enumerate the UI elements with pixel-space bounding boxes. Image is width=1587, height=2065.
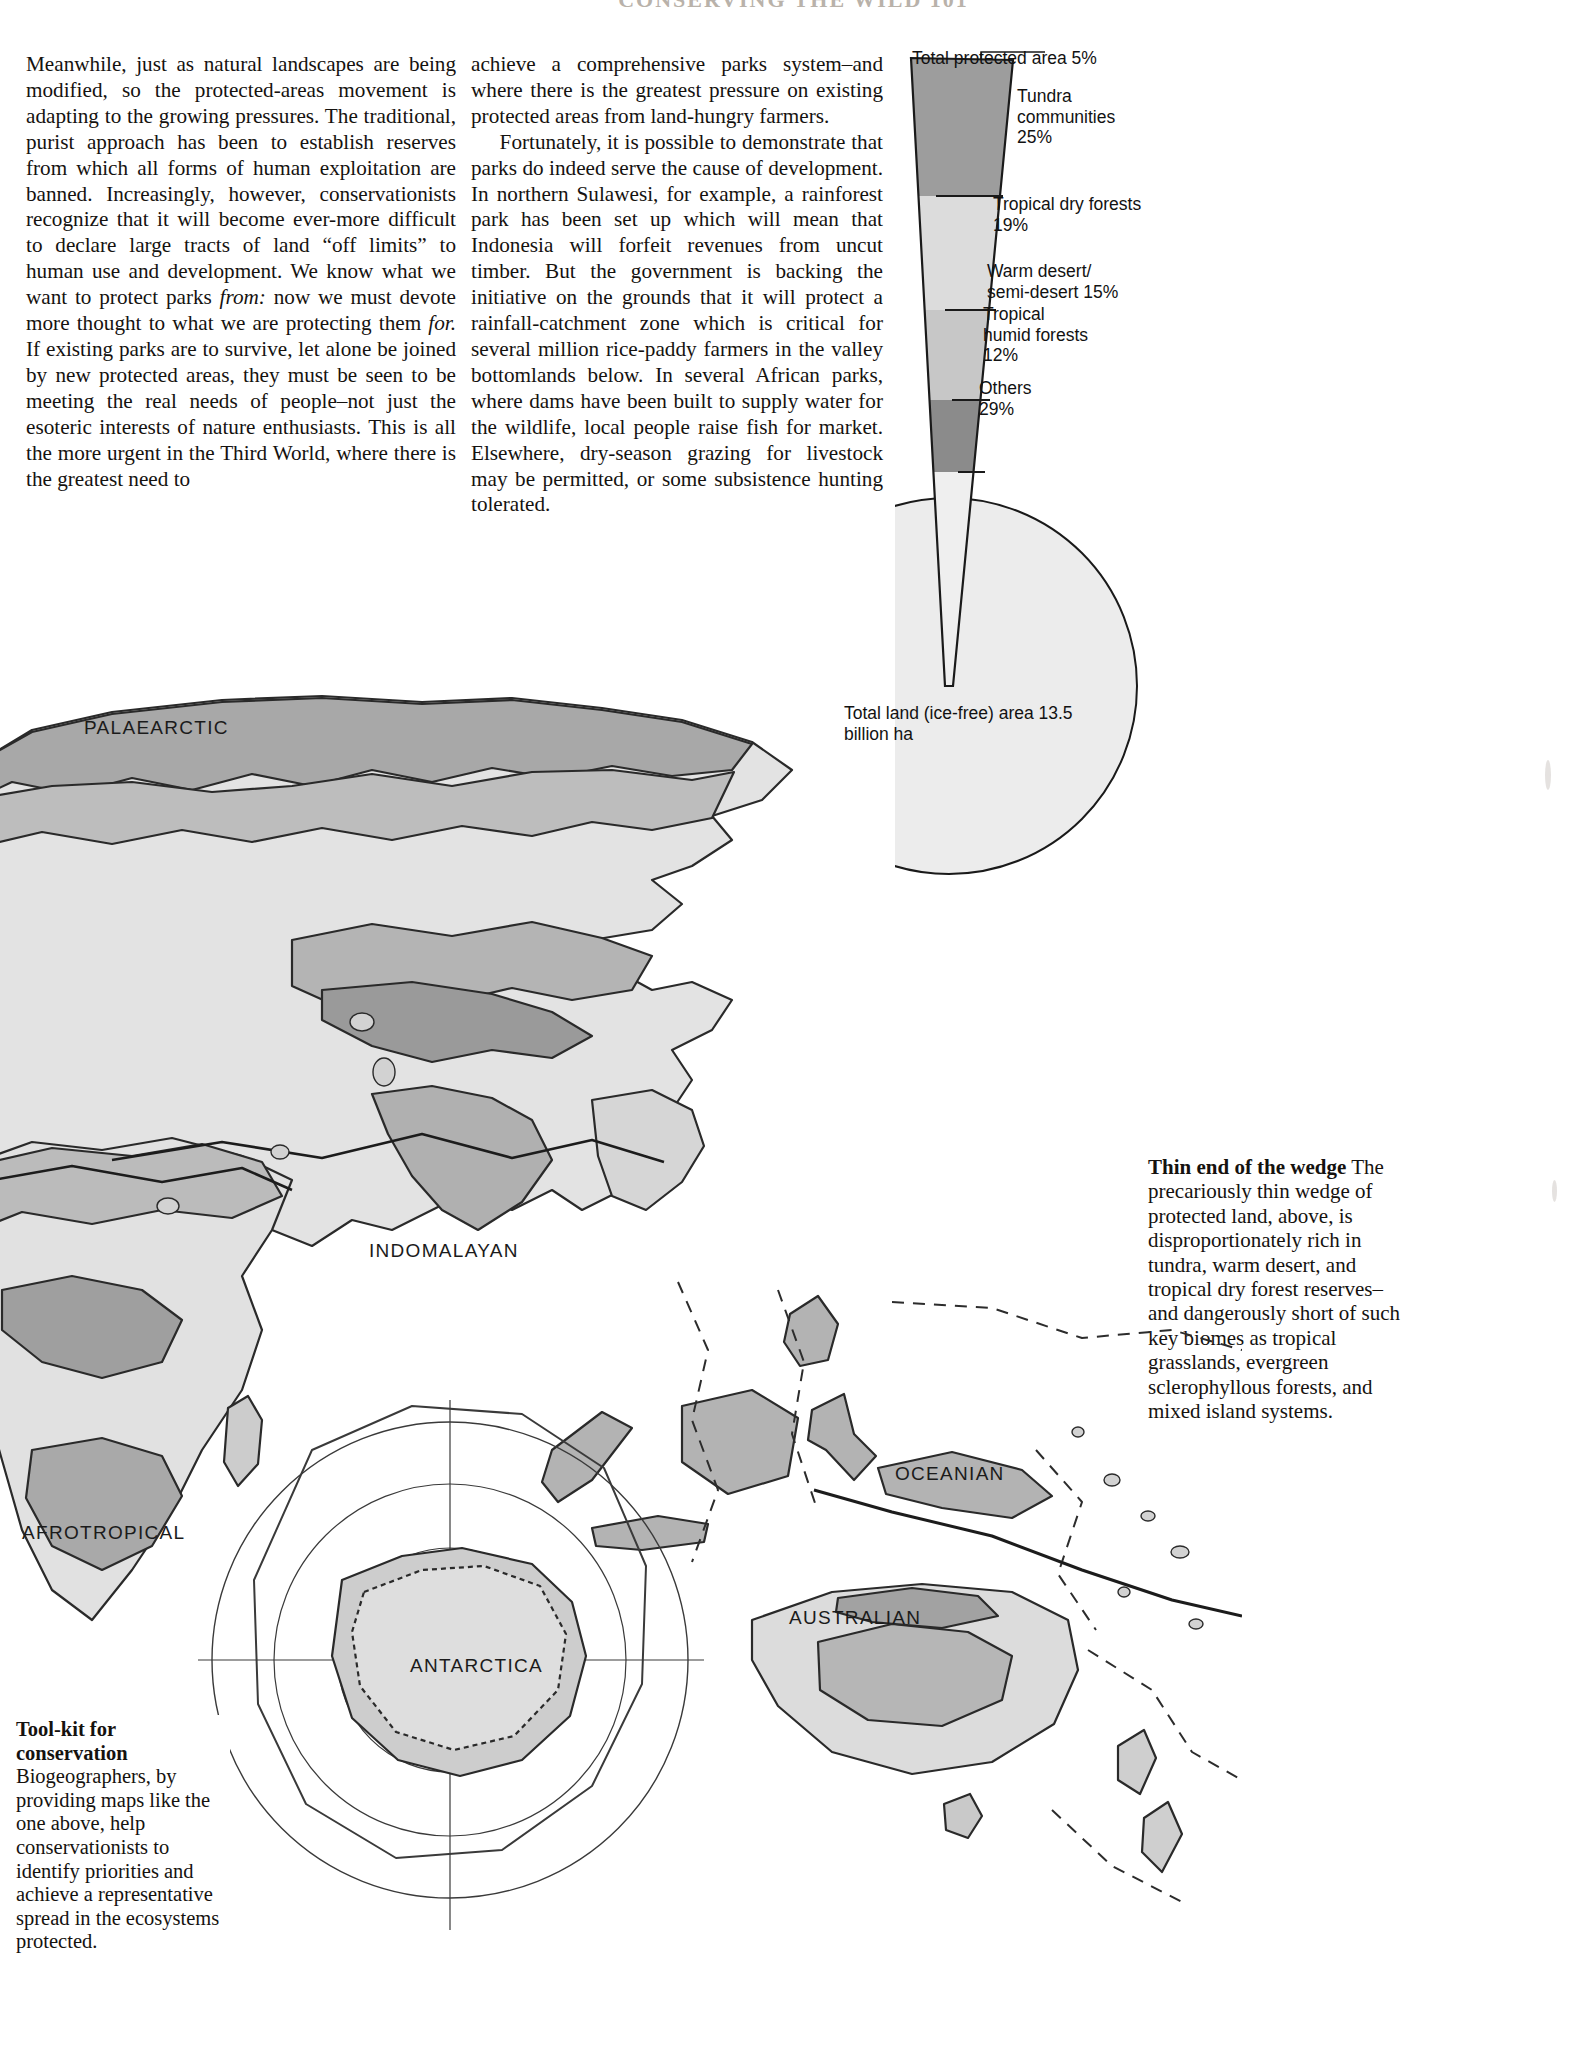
scan-speckle [1545, 760, 1551, 790]
map-label-afrotropical: AFROTROPICAL [22, 1522, 185, 1544]
map-label-antarctica: ANTARCTICA [410, 1655, 543, 1677]
paragraph: Fortunately, it is possible to demonstra… [471, 130, 883, 519]
map-caption-heading: Tool-kit for conservation [16, 1718, 128, 1764]
boundary-australian-east [1088, 1650, 1242, 1780]
island-sulawesi [808, 1394, 876, 1480]
map-caption-body: Biogeographers, by providing maps like t… [16, 1765, 219, 1952]
label-tropical-dry-forests: Tropical dry forests 19% [993, 194, 1141, 235]
map-caption: Tool-kit for conservation Biogeographers… [16, 1715, 230, 1958]
landmass-new-zealand-south [1142, 1802, 1182, 1872]
running-head-text: CONSERVING THE WILD 101 [618, 0, 969, 13]
label-tundra-communities: Tundra communities 25% [1017, 86, 1115, 148]
map-label-palaearctic: PALAEARCTIC [84, 717, 229, 739]
scan-speckle [1552, 1180, 1557, 1202]
label-warm-desert: Warm desert/ semi-desert 15% [987, 261, 1118, 302]
label-others: Others 29% [979, 378, 1032, 419]
landmass-tasmania [944, 1794, 982, 1838]
island-new-guinea [878, 1452, 1052, 1518]
map-label-indomalayan: INDOMALAYAN [369, 1240, 519, 1262]
paragraph: Meanwhile, just as natural landscapes ar… [26, 52, 456, 492]
label-tropical-humid-forests: Tropical humid forests 12% [983, 304, 1088, 366]
map-label-oceanian: OCEANIAN [895, 1463, 1005, 1485]
label-total-protected-area: Total protected area 5% [912, 48, 1097, 69]
body-column-left: Meanwhile, just as natural landscapes ar… [26, 52, 456, 492]
body-column-right: achieve a comprehensive parks system–and… [471, 52, 883, 518]
landmass-madagascar [224, 1396, 262, 1486]
island-java [592, 1516, 708, 1550]
running-head: CONSERVING THE WILD 101 [0, 0, 1587, 22]
boundary-oceanian-north [892, 1302, 1242, 1350]
landmass-new-zealand [1118, 1730, 1156, 1794]
paragraph: achieve a comprehensive parks system–and… [471, 52, 883, 130]
boundary-oceanian-west [1036, 1450, 1096, 1630]
map-label-australian: AUSTRALIAN [789, 1607, 921, 1629]
